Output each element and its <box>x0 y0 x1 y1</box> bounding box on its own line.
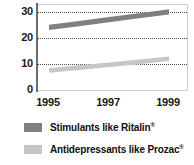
plot-data-area <box>37 4 187 90</box>
legend-label-text: Stimulants like Ritalin <box>50 122 150 133</box>
legend-label-text: Antidepressants like Prozac <box>50 144 179 155</box>
chart-legend: Stimulants like Ritalin® Antidepressants… <box>0 117 194 165</box>
y-axis-tick-labels: 30 20 10 0 <box>0 0 33 95</box>
x-tick-label: 1995 <box>28 96 68 108</box>
x-axis-tick-labels: 1995 1997 1999 <box>36 96 188 112</box>
y-tick-label: 0 <box>3 83 33 95</box>
series-shape-stimulants <box>37 4 187 90</box>
registered-mark: ® <box>150 121 154 127</box>
legend-swatch-icon <box>24 123 42 132</box>
series-polygon <box>49 9 169 30</box>
registered-mark: ® <box>179 143 183 149</box>
x-tick-label: 1999 <box>148 96 188 108</box>
legend-label-stimulants: Stimulants like Ritalin® <box>50 122 155 133</box>
legend-item-antidepressants: Antidepressants like Prozac® <box>24 139 184 159</box>
series-band-stimulants <box>37 4 187 90</box>
y-tick-label: 10 <box>3 57 33 69</box>
legend-swatch-icon <box>24 145 42 154</box>
x-tick-label: 1997 <box>88 96 128 108</box>
chart-figure: 30 20 10 0 1995 1997 1999 Stimulants lik… <box>0 0 194 165</box>
legend-item-stimulants: Stimulants like Ritalin® <box>24 117 155 137</box>
y-tick-label: 20 <box>3 31 33 43</box>
legend-label-antidepressants: Antidepressants like Prozac® <box>50 144 184 155</box>
y-tick-label: 30 <box>3 5 33 17</box>
